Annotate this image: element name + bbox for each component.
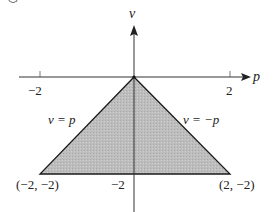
line-label-v-equals-p: v = p: [48, 113, 76, 126]
line-label-v-equals-neg-p: v = −p: [183, 113, 219, 126]
vertex-label-neg2-neg2: (−2, −2): [16, 178, 59, 191]
p-tick-label-neg2: −2: [28, 84, 42, 97]
vertex-label-2-neg2: (2, −2): [219, 178, 255, 191]
p-axis-label: p: [253, 70, 260, 84]
origin-vertex: [132, 75, 135, 78]
triangle-region-diagram: v p −2 2 −2 v = p v = −p (−2, −2) (2, −2…: [0, 0, 276, 212]
v-tick-label-neg2: −2: [111, 178, 125, 191]
p-tick-label-2: 2: [226, 84, 233, 97]
v-axis-label: v: [129, 7, 135, 21]
